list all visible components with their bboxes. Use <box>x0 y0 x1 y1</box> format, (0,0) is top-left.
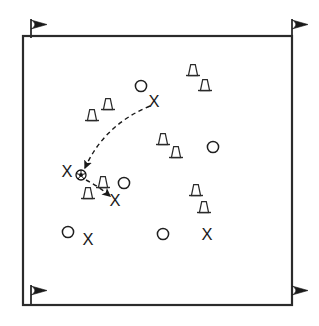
corner-flag-bottom-right-banner <box>292 286 308 295</box>
player-x-1: X <box>148 92 159 110</box>
ball-group <box>76 170 86 180</box>
soccer-ball <box>76 170 86 180</box>
corner-flag-bottom-right <box>292 285 308 305</box>
player-x-2: X <box>61 162 72 180</box>
soccer-ball-center-pentagon <box>79 173 83 177</box>
soccer-field-diagram: XXXXX <box>0 0 319 326</box>
player-x-3: X <box>109 191 120 209</box>
player-x-4: X <box>82 230 93 248</box>
corner-flag-top-right <box>292 19 308 38</box>
corner-flag-top-left-banner <box>31 20 47 29</box>
diagram-canvas: XXXXX <box>0 0 319 326</box>
corner-flag-top-right-banner <box>292 20 308 29</box>
player-x-5: X <box>201 225 212 243</box>
